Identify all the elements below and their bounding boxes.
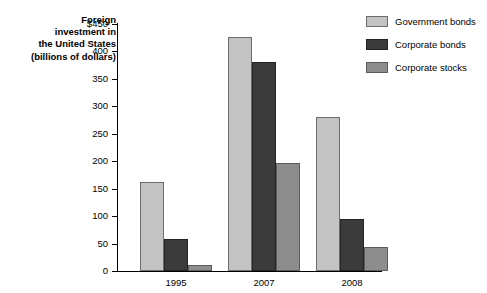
bar-2007-government-bonds [228, 37, 252, 271]
legend-item-corporate-stocks: Corporate stocks [366, 60, 484, 74]
plot-area [118, 24, 381, 271]
legend: Government bondsCorporate bondsCorporate… [366, 14, 484, 83]
y-axis-tick-label: 350 [68, 73, 108, 84]
bar-2008-corporate-stocks [364, 247, 388, 271]
y-axis-tick-label: 200 [68, 155, 108, 166]
y-axis-tick-label: 400 [68, 45, 108, 56]
bar-1995-corporate-stocks [188, 265, 212, 271]
y-axis-tick-label: 150 [68, 183, 108, 194]
bar-1995-corporate-bonds [164, 239, 188, 271]
bar-2008-government-bonds [316, 117, 340, 271]
y-axis-tick-label: 0 [68, 265, 108, 276]
bar-2008-corporate-bonds [340, 219, 364, 271]
bar-1995-government-bonds [140, 182, 164, 271]
legend-swatch [366, 62, 388, 73]
legend-item-corporate-bonds: Corporate bonds [366, 37, 484, 51]
y-axis-tick-label: 100 [68, 210, 108, 221]
y-axis-tick [112, 271, 118, 272]
legend-swatch [366, 16, 388, 27]
legend-label: Corporate stocks [395, 62, 467, 73]
legend-item-government-bonds: Government bonds [366, 14, 484, 28]
x-axis-label-1995: 1995 [146, 277, 206, 288]
x-axis-label-2007: 2007 [234, 277, 294, 288]
y-axis-tick-label: 300 [68, 100, 108, 111]
y-axis-tick-label: 250 [68, 128, 108, 139]
bar-chart: Foreign investment in the United States … [0, 0, 487, 293]
legend-swatch [366, 39, 388, 50]
legend-label: Government bonds [395, 16, 476, 27]
legend-label: Corporate bonds [395, 39, 466, 50]
bar-2007-corporate-bonds [252, 62, 276, 271]
y-axis-tick-label: $450 [68, 18, 108, 29]
x-axis-label-2008: 2008 [322, 277, 382, 288]
x-axis-line [118, 271, 382, 272]
y-axis-tick-label: 50 [68, 238, 108, 249]
bar-2007-corporate-stocks [276, 163, 300, 271]
